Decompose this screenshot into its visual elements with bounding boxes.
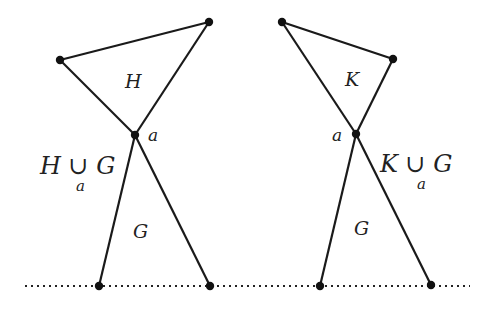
label-H: H xyxy=(124,70,142,92)
vertex-a xyxy=(352,130,360,138)
vertex xyxy=(206,282,214,290)
vertex-a xyxy=(131,131,139,139)
vertex xyxy=(205,18,213,26)
label-K: K xyxy=(344,68,361,90)
vertex xyxy=(427,281,435,289)
graph-diagram: H a H ∪ G a G K a K ∪ G a G xyxy=(0,0,493,310)
vertex xyxy=(316,282,324,290)
label-union-subscript-right: a xyxy=(417,175,426,193)
label-union-subscript-left: a xyxy=(76,177,85,195)
label-a-left: a xyxy=(148,125,158,145)
label-G-right: G xyxy=(354,217,369,239)
label-G-left: G xyxy=(133,220,148,242)
vertex xyxy=(278,18,286,26)
label-union-K-G: K ∪ G xyxy=(379,150,452,178)
vertex xyxy=(389,55,397,63)
label-union-H-G: H ∪ G xyxy=(39,152,115,180)
vertex xyxy=(95,282,103,290)
label-a-right: a xyxy=(332,125,342,145)
vertex xyxy=(56,56,64,64)
